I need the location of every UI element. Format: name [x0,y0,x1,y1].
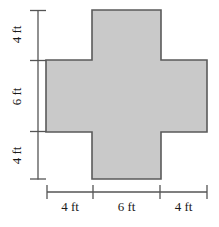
vertical-dimension-label-middle: 6 ft [10,84,23,110]
horizontal-dimension-label-middle: 6 ft [93,200,160,213]
horizontal-dimension-ruler [47,185,207,199]
horizontal-dimension-label-right: 4 ft [160,200,207,213]
cross-shape-figure: 4 ft 6 ft 4 ft 4 ft 6 ft 4 ft [0,0,219,227]
vertical-dimension-ruler [30,11,46,180]
vertical-dimension-label-top: 4 ft [10,22,23,48]
cross-polygon [46,10,207,179]
horizontal-dimension-label-left: 4 ft [47,200,93,213]
figure-canvas [0,0,219,227]
vertical-dimension-label-bottom: 4 ft [10,143,23,169]
